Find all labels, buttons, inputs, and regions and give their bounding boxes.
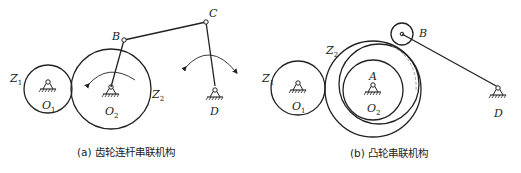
joint-b [122, 38, 126, 42]
label-z1-a: Z1 [9, 72, 22, 87]
caption-b: (b) 凸轮串联机构 [350, 147, 428, 159]
label-o2-b: O2 [367, 102, 381, 117]
label-o1-a: O1 [42, 99, 56, 114]
label-z2-a: Z2 [151, 88, 164, 103]
pivot-a-icon [364, 83, 381, 95]
label-b-a: B [111, 30, 120, 43]
crank-o2b [111, 40, 124, 87]
label-b-b: B [418, 27, 427, 40]
figure-a-gear-linkage: Z1 Z2 O1 O2 B C D (a) 齿轮连杆串联机构 [9, 7, 236, 158]
label-c-a: C [209, 7, 218, 20]
label-d-b: D [493, 107, 503, 120]
label-o1-b: O1 [292, 100, 306, 115]
label-z1-b: Z1 [261, 72, 274, 87]
label-z2-b: Z2 [325, 44, 338, 59]
coupler-bc [124, 22, 206, 40]
pivot-d-b-icon [489, 86, 506, 98]
follower-bd [402, 34, 498, 87]
joint-c [204, 20, 208, 24]
pivot-o1-b-icon [289, 81, 306, 93]
label-a-b: A [368, 70, 377, 83]
figure-b-cam-series: Z1 Z2 O1 A O2 B D (b) 凸轮串联机构 [261, 23, 506, 159]
label-d-a: D [209, 105, 219, 118]
pivot-d-icon [206, 88, 223, 100]
mechanism-diagrams: Z1 Z2 O1 O2 B C D (a) 齿轮连杆串联机构 Z1 Z2 O1 … [0, 0, 521, 173]
pivot-o1-icon [39, 80, 56, 92]
caption-a: (a) 齿轮连杆串联机构 [77, 146, 175, 158]
rocker-cd [206, 22, 215, 86]
label-o2-a: O2 [105, 105, 119, 120]
